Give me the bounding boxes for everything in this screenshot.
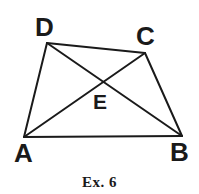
vertex-label-a: A	[14, 140, 33, 166]
vertex-label-e: E	[93, 91, 107, 112]
figure-caption: Ex. 6	[0, 174, 199, 191]
edge-DC	[47, 43, 145, 53]
geometry-figure: D C A B E Ex. 6	[0, 0, 199, 194]
vertex-label-d: D	[35, 14, 54, 40]
vertex-label-b: B	[170, 139, 189, 165]
vertex-label-c: C	[136, 23, 155, 49]
edge-BA	[24, 136, 182, 137]
